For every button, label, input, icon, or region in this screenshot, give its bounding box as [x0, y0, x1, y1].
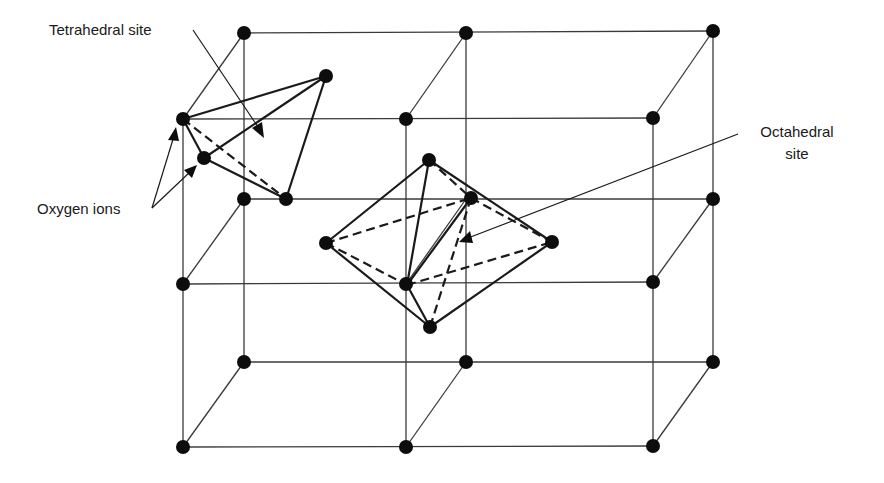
ion-node [646, 275, 660, 289]
ion-node [399, 440, 413, 454]
crystal-lattice-diagram [0, 0, 884, 483]
ion-node [237, 26, 251, 40]
ion-node [176, 440, 190, 454]
ion-node [459, 26, 473, 40]
ion-node [399, 112, 413, 126]
lattice-grid [183, 31, 713, 447]
ion-node [176, 112, 190, 126]
octahedral-site-label: Octahedral site [742, 123, 852, 163]
octahedral-site-pointer [459, 134, 738, 243]
ion-node [646, 111, 660, 125]
tetra-vertex [279, 192, 293, 206]
ion-node [706, 192, 720, 206]
ion-node [459, 355, 473, 369]
octa-vertex [545, 235, 559, 249]
octa-vertex [464, 191, 478, 205]
octa-vertex [319, 236, 333, 250]
octahedron [326, 160, 552, 327]
ion-node [399, 277, 413, 291]
tetrahedral-site-label: Tetrahedral site [49, 21, 152, 39]
octa-vertex [423, 320, 437, 334]
oxygen-ions-label: Oxygen ions [37, 200, 120, 218]
tetra-vertex [197, 151, 211, 165]
octahedral-label-line1: Octahedral [742, 123, 852, 141]
ion-node [706, 24, 720, 38]
ion-node [646, 439, 660, 453]
arrowhead-icon [168, 127, 179, 141]
ion-node [237, 192, 251, 206]
lattice-nodes [176, 24, 720, 454]
ion-node [176, 277, 190, 291]
octahedral-label-line2: site [742, 145, 852, 163]
ion-node [237, 355, 251, 369]
tetrahedron [183, 76, 326, 199]
tetra-vertex [319, 69, 333, 83]
ion-node [706, 355, 720, 369]
oxygen-ions-pointer [152, 127, 197, 208]
octa-vertex [422, 153, 436, 167]
tetrahedral-site-pointer [193, 30, 264, 138]
